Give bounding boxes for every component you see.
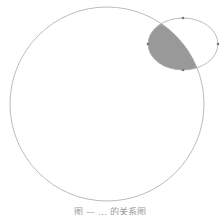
diagram-canvas bbox=[0, 0, 220, 215]
vertex-point-bottom bbox=[182, 69, 185, 72]
figure-caption: 图 — … 的关系图 bbox=[0, 205, 220, 215]
vertex-point-left bbox=[147, 43, 150, 46]
vertex-point-right bbox=[217, 43, 220, 46]
vertex-point-top bbox=[182, 17, 185, 20]
